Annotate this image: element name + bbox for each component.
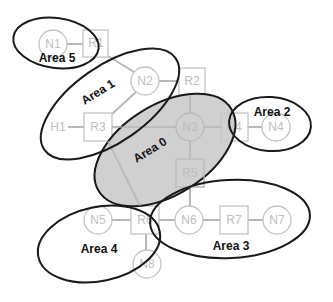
svg-text:N3: N3 [182, 120, 198, 134]
node-n7: N7 [263, 206, 291, 234]
area-3-label: Area 3 [213, 239, 250, 253]
node-n8: N8 [133, 250, 161, 278]
svg-text:N2: N2 [137, 74, 153, 88]
node-r3: R3 [84, 113, 112, 141]
svg-text:R5: R5 [182, 166, 198, 180]
node-r1: R1 [83, 30, 108, 57]
link-n2-r3 [112, 92, 136, 114]
svg-text:R7: R7 [226, 213, 242, 227]
svg-text:N1: N1 [45, 37, 61, 51]
network-diagram: N1 R1 N2 R2 H1 R3 N3 R4 [0, 0, 333, 302]
node-n5: N5 [84, 206, 112, 234]
svg-text:R2: R2 [184, 74, 200, 88]
svg-text:N4: N4 [268, 120, 284, 134]
svg-text:R3: R3 [90, 120, 106, 134]
node-h1: H1 [50, 120, 66, 134]
area-4-label: Area 4 [81, 242, 118, 256]
svg-text:N5: N5 [90, 213, 106, 227]
node-n6: N6 [175, 206, 203, 234]
svg-text:N7: N7 [269, 213, 285, 227]
node-r2: R2 [179, 68, 205, 95]
node-n2: N2 [131, 67, 159, 95]
svg-text:H1: H1 [50, 120, 66, 134]
svg-text:N6: N6 [181, 213, 197, 227]
area-2-label: Area 2 [254, 105, 291, 119]
area-5-label: Area 5 [39, 51, 76, 65]
node-r7: R7 [220, 206, 248, 234]
area-1-label: Area 1 [79, 76, 118, 107]
